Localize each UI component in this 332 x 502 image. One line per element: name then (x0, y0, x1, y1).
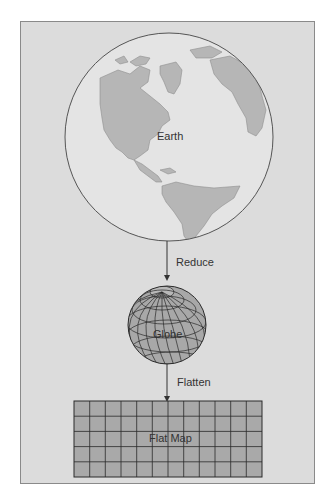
globe-label: Globe (153, 328, 182, 340)
reduce-arrowhead-icon (164, 275, 170, 281)
reduce-label: Reduce (176, 256, 214, 268)
diagram-canvas (0, 0, 332, 502)
earth-label: Earth (157, 130, 183, 142)
flatten-label: Flatten (177, 376, 211, 388)
flat-map-label: Flat Map (149, 432, 192, 444)
